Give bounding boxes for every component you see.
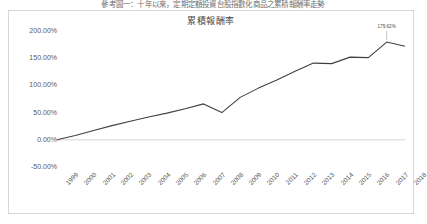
x-axis-tick: 2001 xyxy=(101,171,116,186)
data-point-label: 179.62% xyxy=(378,24,396,30)
x-axis-tick: 2014 xyxy=(339,171,354,186)
x-axis-tick: 2007 xyxy=(211,171,226,186)
chart-frame: 累積報酬率 200.00%150.00%100.00%50.00%0.00%-5… xyxy=(8,10,414,214)
x-axis-tick: 2018 xyxy=(412,171,427,186)
x-axis-tick: 2012 xyxy=(302,171,317,186)
x-axis-tick: 2010 xyxy=(266,171,281,186)
x-axis-tick: 2015 xyxy=(357,171,372,186)
x-axis-tick: 2008 xyxy=(229,171,244,186)
x-axis-tick-labels: 1999200020012002200320042005200620072008… xyxy=(9,11,415,215)
x-axis-tick: 2005 xyxy=(174,171,189,186)
x-axis-tick: 2016 xyxy=(376,171,391,186)
x-axis-tick: 2009 xyxy=(247,171,262,186)
x-axis-tick: 2002 xyxy=(119,171,134,186)
x-axis-tick: 2006 xyxy=(192,171,207,186)
x-axis-tick: 2013 xyxy=(321,171,336,186)
x-axis-tick: 1999 xyxy=(64,171,79,186)
x-axis-tick: 2011 xyxy=(284,171,299,186)
x-axis-tick: 2000 xyxy=(83,171,98,186)
x-axis-tick: 2017 xyxy=(394,171,409,186)
x-axis-tick: 2003 xyxy=(137,171,152,186)
x-axis-tick: 2004 xyxy=(156,171,171,186)
header-caption: 參考圖一：十年以來，定期定額投資台股指數化商品之累積報酬率走勢 xyxy=(0,0,426,9)
